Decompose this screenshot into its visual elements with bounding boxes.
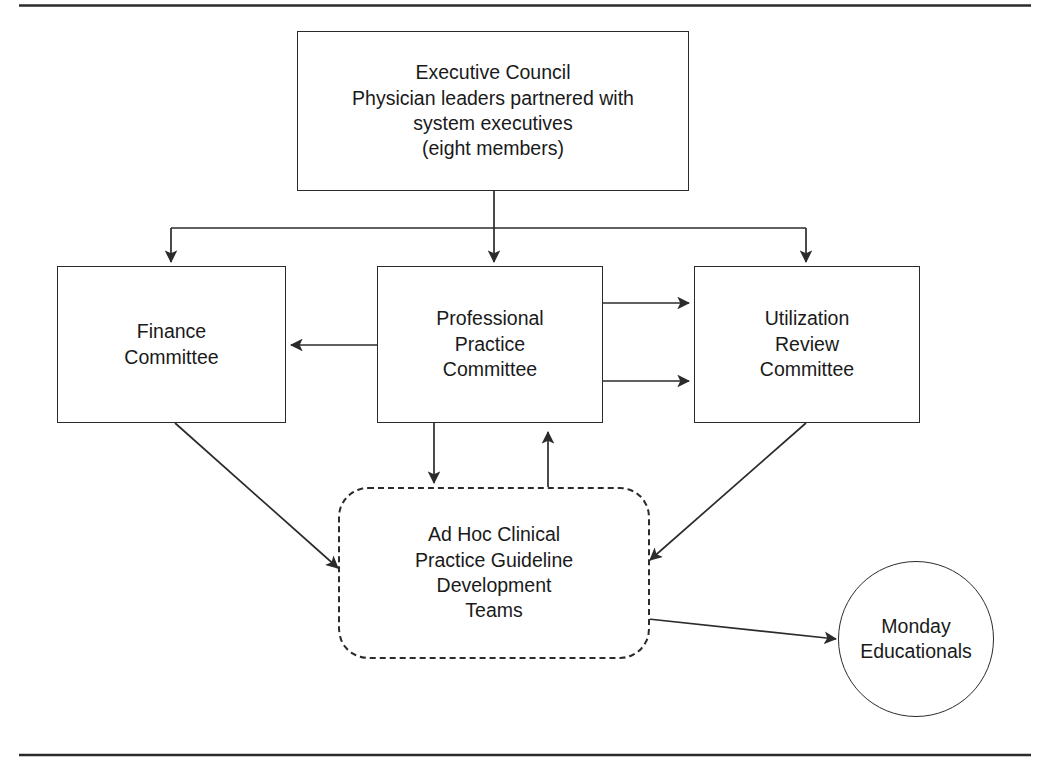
node-ad-hoc-teams-label: Ad Hoc Clinical Practice Guideline Devel… xyxy=(415,522,573,623)
edge-adhoc-to-monday-educationals xyxy=(639,618,836,639)
node-monday-educationals-label: Monday Educationals xyxy=(860,614,972,665)
node-monday-educationals[interactable]: Monday Educationals xyxy=(838,561,994,717)
node-ad-hoc-clinical-practice-guideline-development-teams[interactable]: Ad Hoc Clinical Practice Guideline Devel… xyxy=(338,487,650,659)
node-finance-committee[interactable]: Finance Committee xyxy=(57,266,286,423)
node-utilization-review-committee[interactable]: Utilization Review Committee xyxy=(694,266,920,423)
node-professional-practice-committee[interactable]: Professional Practice Committee xyxy=(377,266,603,423)
edge-utilization-to-adhoc xyxy=(650,423,806,560)
node-finance-committee-label: Finance Committee xyxy=(124,319,218,370)
organizational-chart-figure: Executive Council Physician leaders part… xyxy=(0,0,1038,779)
node-utilization-review-committee-label: Utilization Review Committee xyxy=(760,306,854,382)
node-executive-council-label: Executive Council Physician leaders part… xyxy=(352,60,634,161)
node-executive-council[interactable]: Executive Council Physician leaders part… xyxy=(297,31,689,191)
node-professional-practice-committee-label: Professional Practice Committee xyxy=(436,306,543,382)
edge-finance-to-adhoc xyxy=(175,423,338,568)
